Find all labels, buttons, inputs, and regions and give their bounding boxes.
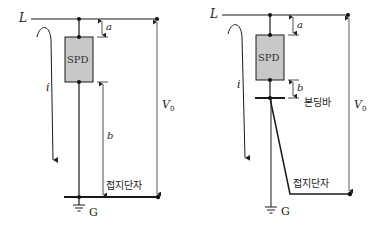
- line-label: L: [210, 8, 218, 20]
- spd-wiring-diagram: [0, 0, 375, 233]
- dimension-a-label: a: [297, 20, 303, 30]
- voltage-label: V0: [354, 99, 366, 113]
- earth-terminal-label: 접지단자: [106, 181, 142, 191]
- ground-label: G: [281, 206, 290, 217]
- spd-label: SPD: [258, 53, 280, 63]
- ground-label: G: [89, 207, 98, 218]
- terminal-dot: [155, 17, 159, 21]
- spd-label: SPD: [67, 55, 89, 65]
- ground-icon: [265, 207, 277, 213]
- bonding-bar-label: 본딩바: [304, 98, 331, 108]
- line-label: L: [19, 12, 27, 24]
- earth-terminal-label: 접지단자: [293, 179, 329, 189]
- diagram-right: [222, 13, 352, 213]
- dimension-b-label: b: [297, 83, 303, 93]
- current-arrow: [228, 25, 245, 158]
- current-label: i: [46, 82, 50, 93]
- ground-icon: [73, 205, 85, 211]
- current-arrow: [37, 28, 53, 160]
- terminal-dot: [346, 13, 350, 17]
- dimension-a-label: a: [106, 22, 112, 32]
- current-label: i: [237, 79, 241, 90]
- voltage-label: V0: [162, 99, 174, 113]
- dimension-b-label: b: [107, 131, 113, 141]
